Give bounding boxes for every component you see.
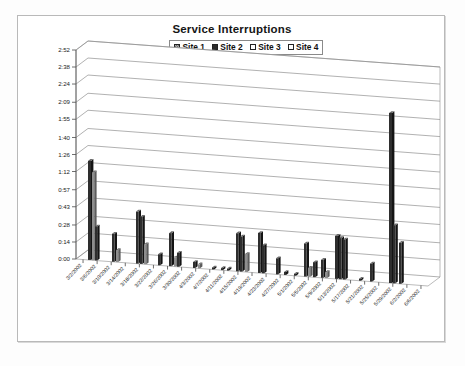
y-axis-tick-label: 0:00 xyxy=(58,255,70,262)
chart-screenshot: Service Interruptions Site 1 Site 2 Site… xyxy=(0,0,465,366)
plot-area: 0:000:140:280:430:571:121:261:401:552:09… xyxy=(18,16,446,343)
bar xyxy=(393,224,398,284)
y-axis-tick-label: 2:38 xyxy=(58,63,70,70)
y-axis-tick-label: 2:52 xyxy=(58,46,70,53)
bar xyxy=(399,241,404,284)
bar xyxy=(240,235,245,272)
bar xyxy=(262,243,267,273)
bar xyxy=(116,248,121,262)
y-axis-tick-label: 1:26 xyxy=(58,151,70,158)
y-axis-tick-label: 1:40 xyxy=(58,134,70,141)
y-axis-tick-label: 1:12 xyxy=(58,168,70,175)
bar xyxy=(95,225,100,261)
y-axis-tick-label: 0:28 xyxy=(58,221,70,228)
bar xyxy=(245,252,250,272)
bar xyxy=(308,266,313,277)
chart-svg: 0:000:140:280:430:571:121:261:401:552:09… xyxy=(18,16,446,343)
y-axis-tick-label: 0:57 xyxy=(58,186,70,193)
y-axis: 0:000:140:280:430:571:121:261:401:552:09… xyxy=(58,46,76,262)
chart-frame: Service Interruptions Site 1 Site 2 Site… xyxy=(17,15,445,342)
bar xyxy=(169,231,174,266)
y-axis-tick-label: 1:55 xyxy=(58,115,70,122)
bar xyxy=(158,252,163,265)
bar xyxy=(370,262,375,282)
y-axis-tick-label: 0:14 xyxy=(58,238,70,245)
bar xyxy=(343,238,348,280)
bar xyxy=(144,242,149,264)
y-axis-tick-label: 0:43 xyxy=(58,203,70,210)
y-axis-tick-label: 2:09 xyxy=(58,98,70,105)
y-axis-tick-label: 2:24 xyxy=(58,80,70,87)
bar xyxy=(313,260,318,277)
bar xyxy=(177,251,182,267)
bar xyxy=(276,257,281,275)
